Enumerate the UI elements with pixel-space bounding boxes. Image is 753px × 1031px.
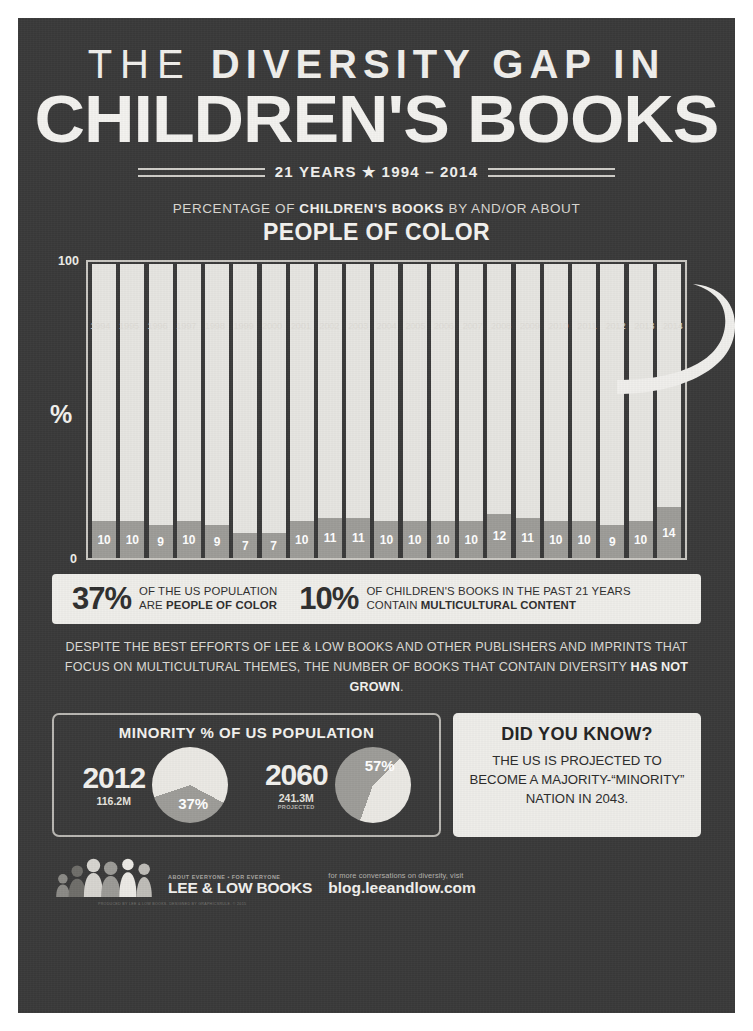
bar-remainder [177,264,201,521]
stat-description: OF THE US POPULATION ARE PEOPLE OF COLOR [139,585,277,613]
stat-percent: 37% [72,583,131,614]
chart-bar: 10 [544,264,568,558]
chart-bar: 10 [120,264,144,558]
x-axis-tick-label: 2013 [630,321,659,331]
bar-value-label: 9 [149,525,173,558]
people-silhouettes-icon [52,853,156,897]
lee-low-brand: ABOUT EVERYONE • FOR EVERYONE LEE & LOW … [168,874,312,896]
stat-line-2: CONTAIN MULTICULTURAL CONTENT [366,599,630,613]
rule-right [488,168,615,177]
y-axis-max-label: 100 [58,254,79,268]
chart-bar: 10 [572,264,596,558]
stat-item: 10% OF CHILDREN'S BOOKS IN THE PAST 21 Y… [299,583,630,614]
x-axis-tick-label: 2010 [544,321,573,331]
rule-left [138,168,265,177]
chart-subtitle-emphasis: PEOPLE OF COLOR [18,219,735,246]
x-axis-tick-label: 1996 [143,321,172,331]
blog-url[interactable]: blog.leeandlow.com [328,880,476,896]
x-axis-tick-label: 2014 [659,321,688,331]
chart-bar: 10 [459,264,483,558]
blog-link-block[interactable]: for more conversations on diversity, vis… [328,871,476,896]
x-axis-tick-label: 1998 [201,321,230,331]
brand-block: ABOUT EVERYONE • FOR EVERYONE LEE & LOW … [168,871,476,897]
bar-value-label: 10 [544,521,568,558]
brand-name: LEE & LOW BOOKS [168,880,312,896]
bar-remainder [459,264,483,521]
pie-chart: 57% [335,747,411,823]
bar-value-label: 10 [572,521,596,558]
bar-remainder [403,264,427,521]
bar-remainder [629,264,653,521]
stat-percent: 10% [299,583,358,614]
pie-population: 241.3M [265,792,328,804]
x-axis-tick-label: 2011 [573,321,602,331]
chart-subtitle: PERCENTAGE OF CHILDREN'S BOOKS BY AND/OR… [18,201,735,216]
pie-percent-label: 57% [365,757,395,774]
minority-panel-heading: MINORITY % OF US POPULATION [64,724,429,741]
chart-bar: 11 [516,264,540,558]
x-axis-tick-label: 1997 [172,321,201,331]
bar-remainder [205,264,229,525]
bar-value-label: 14 [657,507,681,559]
bar-remainder [233,264,257,532]
bar-remainder [92,264,116,521]
x-axis-tick-label: 2001 [286,321,315,331]
title-line-1: THE DIVERSITY GAP IN [18,44,735,85]
did-you-know-panel: DID YOU KNOW? THE US IS PROJECTED TO BEC… [453,713,701,837]
years-badge-label: 21 YEARS ★ 1994 – 2014 [275,163,478,181]
pie-percent-label: 37% [178,795,208,812]
bar-value-label: 10 [120,521,144,558]
x-axis-tick-label: 2006 [430,321,459,331]
chart-bar: 11 [318,264,342,558]
chart-bar: 11 [346,264,370,558]
bar-value-label: 12 [487,514,511,558]
bar-remainder [431,264,455,521]
bar-remainder [657,264,681,506]
x-axis-tick-label: 2009 [515,321,544,331]
production-credit: PRODUCED BY LEE & LOW BOOKS. DESIGNED BY… [98,902,701,906]
chart-bar: 10 [374,264,398,558]
stat-item: 37% OF THE US POPULATION ARE PEOPLE OF C… [72,583,277,614]
pie-chart-item: 2060241.3MPROJECTED57% [265,747,411,823]
bar-remainder [572,264,596,521]
chart-bar: 14 [657,264,681,558]
bottom-panels: MINORITY % OF US POPULATION 2012116.2M37… [52,713,701,837]
bar-remainder [318,264,342,517]
x-axis-tick-label: 1999 [229,321,258,331]
chart-bar: 10 [177,264,201,558]
bar-value-label: 10 [431,521,455,558]
bar-value-label: 10 [92,521,116,558]
chart-bar: 9 [600,264,624,558]
bar-value-label: 10 [290,521,314,558]
chart-plot-area: 1010910977101111101010101211101091014 [86,260,687,560]
bar-value-label: 9 [205,525,229,558]
x-axis-tick-label: 2008 [487,321,516,331]
infographic-poster: THE DIVERSITY GAP IN CHILDREN'S BOOKS 21… [18,18,735,1013]
key-stats-banner: 37% OF THE US POPULATION ARE PEOPLE OF C… [52,574,701,624]
title-line-2: CHILDREN'S BOOKS [18,88,735,151]
chart-bar: 7 [262,264,286,558]
minority-population-panel: MINORITY % OF US POPULATION 2012116.2M37… [52,713,441,837]
poster-header: THE DIVERSITY GAP IN CHILDREN'S BOOKS 21… [18,18,735,246]
bar-value-label: 10 [403,521,427,558]
y-axis-title: % [50,400,72,429]
y-axis-min-label: 0 [70,552,77,566]
x-axis-tick-label: 1994 [86,321,115,331]
bar-value-label: 10 [177,521,201,558]
chart-bar: 10 [290,264,314,558]
chart-bar: 12 [487,264,511,558]
pie-chart: 37% [152,747,228,823]
chart-bar: 7 [233,264,257,558]
body-paragraph: DESPITE THE BEST EFFORTS OF LEE & LOW BO… [52,638,701,697]
chart-bar: 9 [149,264,173,558]
bar-remainder [516,264,540,517]
x-axis-tick-label: 2012 [601,321,630,331]
x-axis-tick-label: 2003 [344,321,373,331]
x-axis-tick-label: 2007 [458,321,487,331]
chart-bar: 10 [629,264,653,558]
x-axis-tick-label: 2004 [372,321,401,331]
x-axis-tick-label: 2005 [401,321,430,331]
pie-population: 116.2M [82,795,145,807]
bar-chart: 100 0 % 10109109771011111010101012111010… [18,260,735,560]
pie-year-block: 2012116.2M [82,763,145,807]
